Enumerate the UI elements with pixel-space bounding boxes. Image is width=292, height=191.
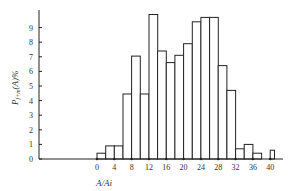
x-tick-mark — [165, 158, 168, 161]
y-tick-label: 4 — [29, 97, 33, 106]
chart-canvas: 0123456789 0481216202428323640 A/Ai Pf+m… — [0, 0, 292, 191]
histogram-bar — [236, 149, 245, 159]
histogram-bar — [201, 17, 210, 159]
x-tick-label: 40 — [266, 163, 274, 172]
x-tick-label: 36 — [249, 163, 257, 172]
x-tick-label: 0 — [95, 163, 99, 172]
x-tick-label: 32 — [232, 163, 240, 172]
histogram-bar — [166, 63, 175, 159]
x-tick-label: 24 — [197, 163, 205, 172]
y-tick-label: 3 — [29, 111, 33, 120]
y-tick-label: 0 — [29, 155, 33, 164]
histogram-bar — [123, 94, 132, 159]
y-tick-label: 9 — [29, 24, 33, 33]
x-ticks: 0481216202428323640 — [95, 158, 274, 172]
histogram-bar — [210, 17, 219, 159]
histogram-bar — [184, 44, 193, 159]
y-tick-label: 8 — [29, 38, 33, 47]
histogram-bar — [270, 150, 274, 159]
x-tick-mark — [269, 158, 272, 161]
x-tick-mark — [200, 158, 203, 161]
y-tick-label: 5 — [29, 82, 33, 91]
x-tick-label: 4 — [112, 163, 116, 172]
x-tick-mark — [130, 158, 133, 161]
histogram-bar — [114, 146, 123, 159]
x-tick-label: 12 — [145, 163, 153, 172]
histogram-bar — [175, 55, 184, 159]
x-tick-mark — [217, 158, 220, 161]
histogram-bar — [192, 22, 201, 159]
y-tick-label: 7 — [29, 53, 33, 62]
y-ticks: 0123456789 — [29, 24, 42, 164]
y-tick-label: 2 — [29, 126, 33, 135]
x-tick-mark — [182, 158, 185, 161]
histogram-bar — [227, 90, 236, 159]
histogram-bar — [244, 144, 253, 159]
x-tick-label: 16 — [162, 163, 170, 172]
histogram-bar — [158, 51, 167, 159]
histogram-bar — [106, 146, 115, 159]
y-axis-label: Pf+m(A)% — [10, 70, 21, 106]
x-tick-mark — [252, 158, 255, 161]
histogram-bar — [253, 153, 262, 159]
x-tick-label: 28 — [214, 163, 222, 172]
histogram-bar — [149, 15, 158, 160]
x-tick-mark — [148, 158, 151, 161]
x-tick-label: 8 — [130, 163, 134, 172]
y-tick-label: 1 — [29, 140, 33, 149]
x-tick-mark — [96, 158, 99, 161]
x-axis-label: A/Ai — [95, 178, 112, 188]
y-tick-label: 6 — [29, 67, 33, 76]
x-tick-label: 20 — [180, 163, 188, 172]
x-tick-mark — [234, 158, 237, 161]
histogram-chart: 0123456789 0481216202428323640 A/Ai Pf+m… — [0, 0, 292, 191]
histogram-bar — [218, 66, 227, 159]
histogram-bar — [140, 94, 149, 159]
histogram-bar — [97, 153, 106, 159]
histogram-bar — [132, 56, 141, 159]
x-tick-mark — [113, 158, 116, 161]
bars-group — [97, 15, 275, 160]
